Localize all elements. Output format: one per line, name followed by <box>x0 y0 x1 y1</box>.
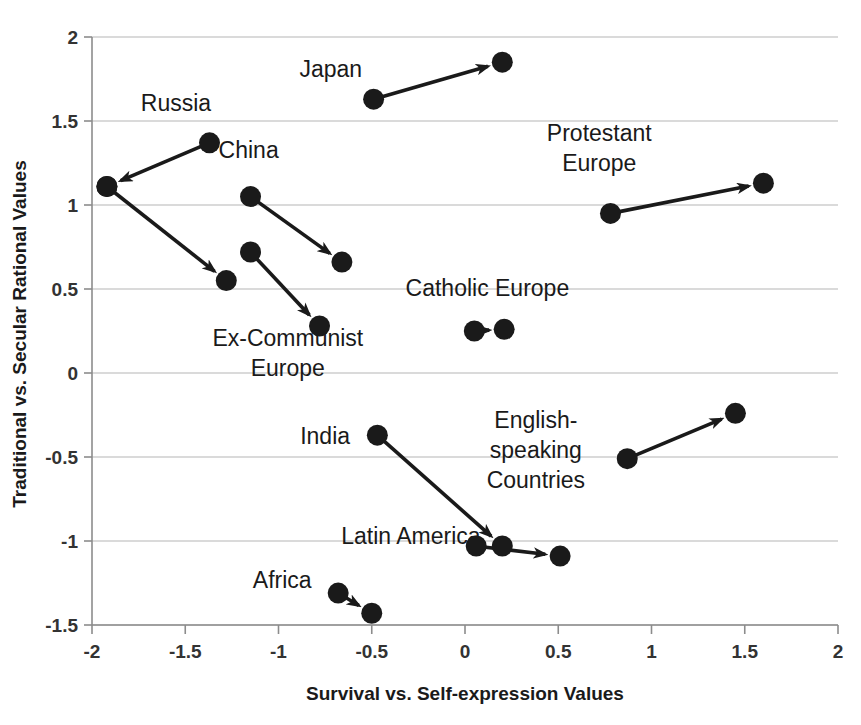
data-point-marker <box>331 252 352 273</box>
data-point-marker <box>240 186 261 207</box>
data-point-marker <box>464 321 485 342</box>
tick-labels-group: 21.510.50-0.5-1-1.5-2-1.5-1-0.500.511.52 <box>45 27 843 662</box>
data-point-marker <box>492 536 513 557</box>
x-axis-tick-label: 2 <box>833 641 844 662</box>
data-point-label: Catholic Europe <box>406 275 570 301</box>
data-point-marker <box>361 603 382 624</box>
data-point-marker <box>96 176 117 197</box>
trend-arrow <box>255 200 330 254</box>
data-point-marker <box>600 203 621 224</box>
data-point-marker <box>550 546 571 567</box>
data-point-marker <box>328 583 349 604</box>
trend-arrow <box>379 66 488 97</box>
data-point-marker <box>199 132 220 153</box>
data-point-marker <box>753 173 774 194</box>
data-point-marker <box>367 425 388 446</box>
trend-arrow <box>616 186 749 212</box>
x-axis-tick-label: -1 <box>270 641 287 662</box>
data-point-marker <box>363 89 384 110</box>
data-point-label: English-speakingCountries <box>487 407 585 493</box>
data-point-label: Russia <box>141 90 212 116</box>
y-axis-tick-label: -1 <box>61 531 78 552</box>
trend-arrow <box>481 547 545 555</box>
x-axis-tick-label: -2 <box>84 641 101 662</box>
data-point-label: ProtestantEurope <box>547 120 652 176</box>
x-axis-tick-label: -0.5 <box>355 641 388 662</box>
data-point-marker <box>617 448 638 469</box>
x-axis-tick-label: 0 <box>460 641 471 662</box>
data-point-label: Latin America <box>341 523 481 549</box>
data-point-marker <box>216 270 237 291</box>
data-point-marker <box>725 403 746 424</box>
y-axis-tick-label: 1 <box>67 195 78 216</box>
data-point-marker <box>240 242 261 263</box>
x-axis-tick-label: -1.5 <box>169 641 202 662</box>
cultural-map-scatter-chart: 21.510.50-0.5-1-1.5-2-1.5-1-0.500.511.52… <box>0 0 861 725</box>
trend-arrow <box>254 256 309 315</box>
y-axis-tick-label: -0.5 <box>45 447 78 468</box>
x-axis-tick-label: 1 <box>646 641 657 662</box>
chart-plot-area: 21.510.50-0.5-1-1.5-2-1.5-1-0.500.511.52… <box>0 0 861 725</box>
data-point-label: China <box>219 137 279 163</box>
trend-arrow <box>121 145 205 181</box>
data-point-label: Japan <box>299 56 362 82</box>
trend-arrow <box>632 419 721 457</box>
x-axis-tick-label: 1.5 <box>732 641 759 662</box>
y-axis-tick-label: 2 <box>67 27 78 48</box>
y-axis-tick-label: -1.5 <box>45 615 78 636</box>
data-point-marker <box>492 52 513 73</box>
trend-arrow <box>381 439 491 536</box>
trend-arrow <box>111 190 214 272</box>
y-axis-tick-label: 0.5 <box>52 279 79 300</box>
data-point-marker <box>494 319 515 340</box>
x-axis-tick-label: 0.5 <box>545 641 572 662</box>
data-point-label: India <box>300 423 350 449</box>
y-axis-tick-label: 1.5 <box>52 111 79 132</box>
x-axis-title: Survival vs. Self-expression Values <box>306 683 624 704</box>
data-point-label: Africa <box>253 567 312 593</box>
y-axis-tick-label: 0 <box>67 363 78 384</box>
y-axis-title: Traditional vs. Secular Rational Values <box>9 160 30 507</box>
